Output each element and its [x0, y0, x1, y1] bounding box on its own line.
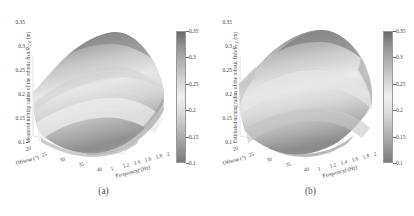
panel-a-surface-svg: [27, 18, 167, 166]
panel-a-colorbar: 0.35 0.3 0.25 0.2 0.15 0.1: [176, 31, 206, 163]
panel-b-y-tick: 1.2: [329, 161, 337, 168]
panel-b-z-tick: 0.15: [223, 115, 234, 121]
panel-a-z-tick: 0.3: [18, 43, 27, 49]
panel-b-y-axis-title-unit: (Hz): [345, 164, 357, 173]
figure-root: Measured turning radius of the robotic f…: [0, 0, 414, 216]
panel-a-colorbar-gradient: [176, 31, 186, 163]
panel-b-caption: (b): [207, 186, 414, 196]
panel-b-x-tick: 40: [303, 166, 310, 173]
panel-b-colorbar: 0.35 0.3 0.25 0.2 0.15 0.1: [383, 31, 413, 163]
panel-b-y-axis-title-text: Frequency: [322, 167, 346, 179]
panel-a-colorbar-tick: 0.35: [189, 28, 198, 34]
panel-b-colorbar-tick: 0.15: [396, 134, 405, 140]
panel-b-surface-svg: [234, 18, 374, 166]
panel-a-y-axis-title-unit: (Hz): [138, 164, 150, 173]
panel-a: Measured turning radius of the robotic f…: [0, 0, 207, 216]
panel-b-z-tick: 0.2: [225, 91, 234, 97]
panel-b-colorbar-tick: 0.25: [396, 81, 405, 87]
panel-b-z-tick: 0.1: [225, 139, 234, 145]
panel-a-y-tick: 1.2: [122, 161, 130, 168]
panel-a-y-axis-title: Frequencyf (Hz): [115, 164, 151, 179]
panel-a-z-tick: 0.25: [16, 67, 27, 73]
panel-a-caption: (a): [0, 186, 207, 196]
panel-a-colorbar-tick: 0.3: [189, 54, 196, 60]
panel-b-z-tick: 0.25: [223, 67, 234, 73]
panel-a-y-tick: 1: [110, 165, 114, 171]
panel-b-y-tick: 2: [373, 150, 377, 156]
panel-b: Estimated turning radius of the robotic …: [207, 0, 414, 216]
panel-b-y-axis-title: Frequencyf (Hz): [322, 164, 358, 179]
panel-b-plot-area: 0.35 0.3 0.25 0.2 0.15 0.1 20 25 30 35 4…: [234, 18, 374, 166]
panel-a-colorbar-tick: 0.25: [189, 81, 198, 87]
panel-b-colorbar-tick: 0.1: [396, 160, 403, 166]
panel-a-z-tick: 0.1: [18, 139, 27, 145]
panel-a-colorbar-tick: 0.15: [189, 134, 198, 140]
panel-a-z-tick: 0.2: [18, 91, 27, 97]
panel-b-colorbar-tick: 0.35: [396, 28, 405, 34]
panel-b-colorbar-tick: 0.3: [396, 54, 403, 60]
panel-a-colorbar-tick: 0.1: [189, 160, 196, 166]
panel-a-y-axis-title-text: Frequency: [115, 167, 139, 179]
panel-b-y-tick: 1: [317, 165, 321, 171]
panel-a-z-tick: 0.15: [16, 115, 27, 121]
panel-b-z-tick: 0.35: [223, 19, 234, 25]
panel-a-y-tick: 2: [166, 150, 170, 156]
panel-a-z-tick: 0.35: [16, 19, 27, 25]
panel-a-colorbar-tick: 0.2: [189, 107, 196, 113]
panel-b-z-tick: 0.3: [225, 43, 234, 49]
panel-a-x-tick: 40: [96, 166, 103, 173]
panel-a-plot-area: 0.35 0.3 0.25 0.2 0.15 0.1 20 25 30 35 4…: [27, 18, 167, 166]
panel-b-colorbar-gradient: [383, 31, 393, 163]
panel-b-colorbar-tick: 0.2: [396, 107, 403, 113]
